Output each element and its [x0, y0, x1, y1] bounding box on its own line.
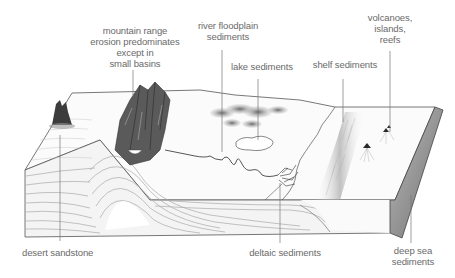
- label-lake-sediments: lake sediments: [222, 61, 302, 72]
- label-deep-sea-sediments: deep sea sediments: [388, 245, 438, 267]
- label-desert-sandstone: desert sandstone: [22, 247, 102, 258]
- label-volcanoes: volcanoes, islands, reefs: [360, 12, 420, 45]
- label-shelf-sediments: shelf sediments: [305, 59, 385, 70]
- label-mountain-range: mountain range erosion predominates exce…: [85, 25, 185, 69]
- label-deltaic-sediments: deltaic sediments: [240, 247, 330, 258]
- diagram-canvas: mountain range erosion predominates exce…: [0, 0, 455, 278]
- label-river-floodplain: river floodplain sediments: [188, 20, 268, 42]
- lake: [236, 136, 273, 150]
